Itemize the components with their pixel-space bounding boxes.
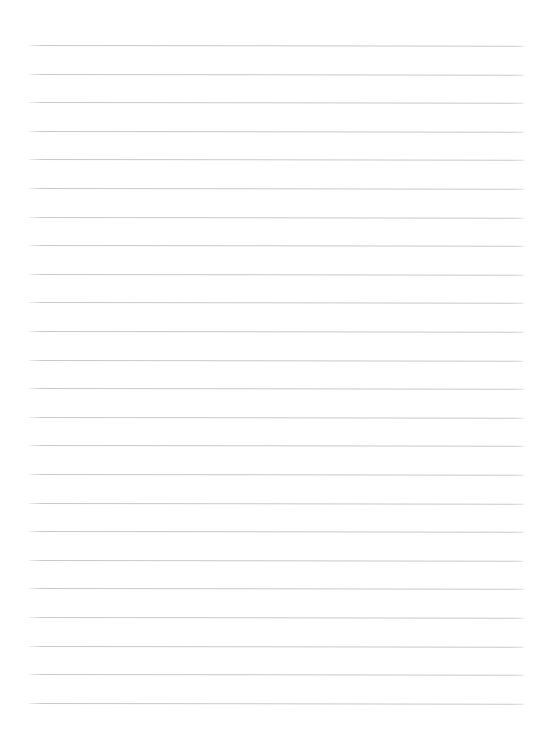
rule-line xyxy=(27,302,525,304)
rule-line xyxy=(27,388,525,390)
rule-line xyxy=(27,102,525,104)
rule-line xyxy=(27,445,525,447)
rule-line xyxy=(27,188,525,190)
rule-line xyxy=(27,588,525,590)
lined-paper-page xyxy=(0,0,534,743)
rule-line xyxy=(27,217,525,219)
rule-line xyxy=(27,474,525,476)
rule-line xyxy=(27,74,525,76)
ruled-line-area xyxy=(0,0,534,743)
rule-line xyxy=(27,531,525,533)
rule-line xyxy=(27,417,525,419)
rule-line xyxy=(27,45,525,47)
rule-line xyxy=(27,503,525,505)
rule-line xyxy=(27,560,525,562)
rule-line xyxy=(27,131,525,133)
rule-line xyxy=(27,159,525,161)
rule-line xyxy=(27,245,525,247)
rule-line xyxy=(27,274,525,276)
rule-line xyxy=(27,331,525,333)
rule-line xyxy=(27,617,525,619)
rule-line xyxy=(27,703,525,705)
rule-line xyxy=(27,646,525,648)
rule-line xyxy=(27,674,525,676)
rule-line xyxy=(27,360,525,362)
